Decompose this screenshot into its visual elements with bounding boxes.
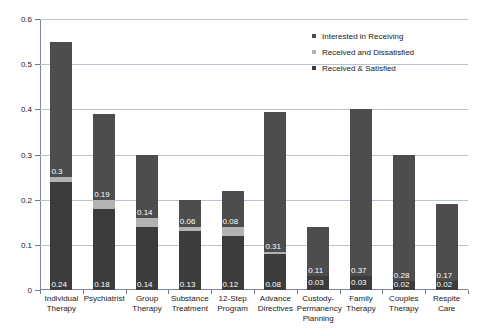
bar-group: 0.020.17 xyxy=(436,204,458,290)
bar-segment xyxy=(222,227,244,236)
bar-segment: 0.11 xyxy=(307,227,329,277)
bar-segment xyxy=(264,252,286,254)
chart-legend: Interested in ReceivingReceived and Diss… xyxy=(312,28,472,76)
bar-segment: 0.08 xyxy=(222,191,244,227)
legend-label: Received and Dissatisfied xyxy=(322,48,414,57)
bar-value-label: 0.11 xyxy=(308,267,323,275)
y-tick-mark xyxy=(35,155,40,156)
y-tick-mark xyxy=(35,64,40,65)
bar-segment: 0.03 xyxy=(307,276,329,290)
gridline xyxy=(40,109,468,110)
y-tick-mark xyxy=(35,109,40,110)
x-axis-label: Psychiatrist xyxy=(83,294,126,304)
bar-segment: 0.12 xyxy=(222,236,244,290)
bar-value-label: 0.08 xyxy=(223,218,239,226)
bar-value-label: 0.02 xyxy=(394,281,410,289)
bar-group: 0.130.06 xyxy=(179,200,201,290)
bar-segment: 0.03 xyxy=(350,276,372,290)
x-axis-label: Group Therapy xyxy=(126,294,169,314)
y-tick-mark xyxy=(35,245,40,246)
legend-item[interactable]: Interested in Receiving xyxy=(312,28,472,44)
bar-segment xyxy=(50,177,72,182)
bar-segment: 0.31 xyxy=(264,112,286,252)
y-tick-label: 0.5 xyxy=(21,60,32,69)
bar-value-label: 0.17 xyxy=(437,272,453,280)
bar-segment: 0.28 xyxy=(393,155,415,281)
bar-value-label: 0.08 xyxy=(265,281,281,289)
bar-value-label: 0.37 xyxy=(351,267,367,275)
bar-group: 0.020.28 xyxy=(393,155,415,290)
bar-segment: 0.24 xyxy=(50,182,72,290)
legend-label: Received & Satisfied xyxy=(322,64,396,73)
x-axis-label: Couples Therapy xyxy=(382,294,425,314)
bar-segment: 0.3 xyxy=(50,42,72,178)
y-tick-label: 0.6 xyxy=(21,15,32,24)
bar-value-label: 0.14 xyxy=(137,281,153,289)
bar-value-label: 0.28 xyxy=(394,272,410,280)
bar-value-label: 0.03 xyxy=(308,279,324,287)
bar-group: 0.240.3 xyxy=(50,42,72,290)
bar-segment: 0.08 xyxy=(264,254,286,290)
bar-value-label: 0.31 xyxy=(265,243,281,251)
y-tick-label: 0 xyxy=(28,286,32,295)
bar-group: 0.080.31 xyxy=(264,112,286,290)
bar-segment xyxy=(179,227,201,232)
y-tick-mark xyxy=(35,200,40,201)
y-tick-mark xyxy=(35,19,40,20)
x-axis-label: Individual Therapy xyxy=(40,294,83,314)
y-tick-label: 0.4 xyxy=(21,105,32,114)
bar-segment: 0.06 xyxy=(179,200,201,227)
legend-swatch-icon xyxy=(312,50,316,54)
x-axis-label: Advance Directives xyxy=(254,294,297,314)
bar-segment: 0.18 xyxy=(93,209,115,290)
bar-group: 0.030.37 xyxy=(350,109,372,290)
legend-item[interactable]: Received and Dissatisfied xyxy=(312,44,472,60)
x-axis-labels: Individual TherapyPsychiatristGroup Ther… xyxy=(40,294,468,336)
bar-segment: 0.14 xyxy=(136,155,158,218)
legend-swatch-icon xyxy=(312,34,316,38)
bar-value-label: 0.03 xyxy=(351,279,367,287)
x-axis-label: 12-Step Program xyxy=(211,294,254,314)
bar-segment: 0.19 xyxy=(93,114,115,200)
y-tick-label: 0.3 xyxy=(21,150,32,159)
bar-segment xyxy=(93,200,115,209)
bar-value-label: 0.06 xyxy=(180,218,196,226)
stacked-bar-chart: 00.10.20.30.40.50.6 0.240.30.180.190.140… xyxy=(0,0,477,336)
bar-segment xyxy=(136,218,158,227)
legend-swatch-icon xyxy=(312,66,316,70)
bar-segment: 0.14 xyxy=(136,227,158,290)
x-axis-label: Respite Care xyxy=(425,294,468,314)
bar-value-label: 0.24 xyxy=(51,281,67,289)
y-tick-label: 0.2 xyxy=(21,195,32,204)
bar-group: 0.140.14 xyxy=(136,155,158,290)
bar-value-label: 0.19 xyxy=(94,191,110,199)
legend-item[interactable]: Received & Satisfied xyxy=(312,60,472,76)
bar-segment: 0.02 xyxy=(436,281,458,290)
x-axis-label: Substance Treatment xyxy=(168,294,211,314)
bar-segment: 0.02 xyxy=(393,281,415,290)
x-axis-label: Custody-Permanency Planning xyxy=(297,294,340,324)
legend-label: Interested in Receiving xyxy=(322,32,403,41)
bar-group: 0.180.19 xyxy=(93,114,115,290)
bar-value-label: 0.13 xyxy=(180,281,196,289)
bar-group: 0.120.08 xyxy=(222,191,244,290)
bar-segment: 0.13 xyxy=(179,231,201,290)
bar-value-label: 0.12 xyxy=(223,281,239,289)
bar-value-label: 0.18 xyxy=(94,281,110,289)
bar-value-label: 0.02 xyxy=(437,281,453,289)
x-axis-label: Family Therapy xyxy=(340,294,383,314)
bar-segment: 0.17 xyxy=(436,204,458,281)
y-tick-label: 0.1 xyxy=(21,240,32,249)
x-tick-mark xyxy=(468,290,469,294)
bar-value-label: 0.14 xyxy=(137,209,153,217)
gridline xyxy=(40,19,468,20)
bar-segment: 0.37 xyxy=(350,109,372,276)
bar-value-label: 0.3 xyxy=(51,168,62,176)
bar-group: 0.030.11 xyxy=(307,227,329,290)
